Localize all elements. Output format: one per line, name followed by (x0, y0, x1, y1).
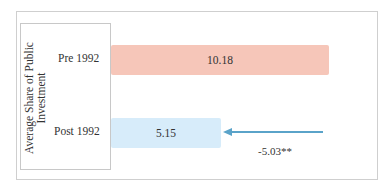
y-axis-title: Average Share of Public Investment (22, 36, 48, 160)
category-label-pre-1992: Pre 1992 (58, 52, 99, 64)
bar-post-1992: 5.15 (111, 118, 221, 148)
category-label-post-1992: Post 1992 (54, 125, 100, 137)
bar-value-pre-1992: 10.18 (207, 54, 233, 66)
difference-label: -5.03** (258, 145, 292, 157)
y-axis-title-line-2: Investment (35, 42, 47, 154)
bar-pre-1992: 10.18 (111, 45, 329, 75)
decrease-arrow-icon (220, 126, 326, 138)
bar-value-post-1992: 5.15 (156, 127, 176, 139)
y-axis-title-line-1: Average Share of Public (23, 42, 35, 154)
